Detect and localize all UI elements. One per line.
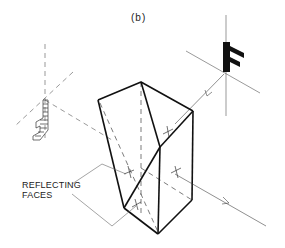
figure-title: (b): [131, 12, 146, 23]
image-letter-f-icon: [33, 100, 48, 140]
prism-diagram: (b): [0, 0, 285, 248]
prism: [98, 82, 193, 234]
diagram-svg: [0, 0, 285, 248]
incoming-ray: [175, 74, 224, 124]
prism-hidden-edges: [100, 82, 192, 232]
reflecting-faces-label: REFLECTING FACES: [22, 180, 81, 200]
reflection-markers: [124, 126, 181, 210]
outgoing-ray: [175, 174, 266, 226]
object-letter-f-icon: [223, 42, 244, 72]
label-line-2: FACES: [22, 190, 81, 200]
label-line-1: REFLECTING: [22, 180, 81, 190]
image-axes: [15, 44, 112, 140]
